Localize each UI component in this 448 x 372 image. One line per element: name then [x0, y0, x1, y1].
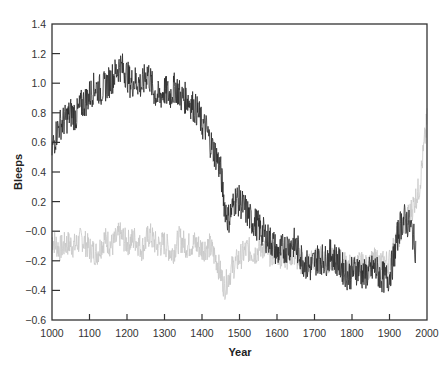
x-tick-label: 1300 [153, 327, 177, 339]
x-tick-label: 1400 [190, 327, 214, 339]
x-tick-label: 1800 [340, 327, 364, 339]
y-tick-label: 1.2 [31, 48, 46, 60]
x-tick-label: 1700 [303, 327, 327, 339]
y-tick-label: 0.8 [31, 107, 46, 119]
y-tick-label: −0.4 [25, 284, 46, 296]
y-tick-label: 0.4 [31, 166, 46, 178]
x-tick-label: 1100 [78, 327, 101, 339]
x-axis: 1000110012001300140015001600170018001900… [40, 314, 439, 339]
series-layer [52, 54, 427, 300]
y-tick-label: 0.2 [31, 196, 46, 208]
x-tick-label: 2000 [415, 327, 439, 339]
y-tick-label: 0.6 [31, 136, 46, 148]
y-axis-title: Bleeps [12, 154, 24, 190]
y-tick-label: −0.2 [25, 255, 46, 267]
x-axis-title: Year [228, 346, 252, 358]
series-line [52, 54, 416, 293]
x-tick-label: 1900 [378, 327, 402, 339]
y-tick-label: 1.4 [31, 18, 46, 30]
y-tick-label: 1.0 [31, 77, 46, 89]
y-tick-label: −0.0 [25, 225, 46, 237]
x-tick-label: 1600 [265, 327, 289, 339]
x-tick-label: 1000 [40, 327, 64, 339]
x-tick-label: 1500 [228, 327, 252, 339]
y-axis: 1.41.21.00.80.60.40.2−0.0−0.2−0.4−0.6 [25, 18, 60, 326]
y-tick-label: −0.6 [25, 314, 46, 326]
x-tick-label: 1200 [115, 327, 139, 339]
line-chart: 1.41.21.00.80.60.40.2−0.0−0.2−0.4−0.6 10… [0, 0, 448, 372]
